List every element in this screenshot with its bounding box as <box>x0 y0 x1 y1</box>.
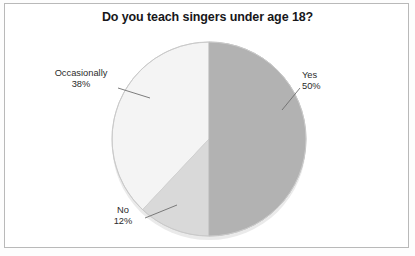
pie-label-no-value: 12% <box>106 216 140 227</box>
pie-label-occasionally-value: 38% <box>45 79 117 90</box>
pie-graphic <box>0 0 415 256</box>
pie-chart-figure: Do you teach singers under age 18? Occas… <box>0 0 415 256</box>
pie-slice-yes[interactable] <box>209 42 306 236</box>
pie-label-no: No 12% <box>106 205 140 227</box>
pie-label-occasionally: Occasionally 38% <box>45 68 117 90</box>
pie-label-occasionally-name: Occasionally <box>55 68 108 78</box>
pie-label-yes-name: Yes <box>302 70 317 80</box>
pie-label-no-name: No <box>117 205 129 215</box>
pie-label-yes: Yes 50% <box>302 70 362 92</box>
pie-label-yes-value: 50% <box>302 81 362 92</box>
